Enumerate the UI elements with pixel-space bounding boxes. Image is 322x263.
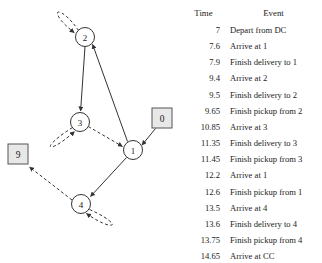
edge-4-to-9 — [30, 167, 73, 200]
cell-time: 13.75 — [186, 232, 221, 248]
edge-3-to-1 — [88, 127, 122, 147]
cell-time: 13.6 — [186, 216, 221, 232]
depot-0-label: 0 — [160, 114, 165, 124]
cell-time: 12.2 — [186, 168, 221, 184]
column-header-time: Time — [186, 5, 221, 22]
table-row: 9.4 Arrive at 2 — [186, 71, 322, 87]
cell-event: Arrive at 4 — [221, 200, 322, 216]
node-3-label: 3 — [78, 118, 83, 128]
edge-2-to-3 — [81, 47, 85, 112]
cell-time: 13.5 — [186, 200, 221, 216]
table-row: 13.6 Finish delivery to 4 — [186, 216, 322, 232]
cell-time: 14.65 — [186, 249, 221, 263]
node-1-label: 1 — [131, 146, 136, 156]
cell-time: 7.9 — [186, 54, 221, 70]
table-row: 9.65 Finish pickup from 2 — [186, 103, 322, 119]
edge-1-to-2 — [93, 44, 128, 141]
cell-time: 7 — [186, 22, 221, 38]
cell-event: Arrive at 1 — [221, 38, 322, 54]
edge-0-to-1 — [142, 129, 156, 146]
cell-time: 10.85 — [186, 119, 221, 135]
graph-node-1[interactable]: 1 — [124, 141, 143, 160]
table-row: 13.5 Arrive at 4 — [186, 200, 322, 216]
cell-time: 11.45 — [186, 152, 221, 168]
table-body: 7 Depart from DC 7.6 Arrive at 1 7.9 Fin… — [186, 22, 322, 263]
cell-time: 12.6 — [186, 184, 221, 200]
cell-time: 11.35 — [186, 135, 221, 151]
selfloop-node-3 — [50, 128, 74, 147]
cell-time: 9.4 — [186, 71, 221, 87]
cell-event: Finish pickup from 3 — [221, 152, 322, 168]
cell-event: Arrive at 1 — [221, 168, 322, 184]
event-schedule-table: Time Event 7 Depart from DC 7.6 Arrive a… — [186, 5, 322, 263]
depot-9-label: 9 — [16, 150, 21, 160]
depot-node-0[interactable]: 0 — [152, 108, 172, 128]
table-row: 9.5 Finish delivery to 2 — [186, 87, 322, 103]
table-row: 12.6 Finish pickup from 1 — [186, 184, 322, 200]
table-row: 11.45 Finish pickup from 3 — [186, 152, 322, 168]
table-row: 7.6 Arrive at 1 — [186, 38, 322, 54]
table-row: 14.65 Arrive at CC — [186, 249, 322, 263]
table-row: 11.35 Finish delivery to 3 — [186, 135, 322, 151]
table-row: 7 Depart from DC — [186, 22, 322, 38]
edge-1-to-4 — [91, 158, 127, 197]
cell-time: 9.65 — [186, 103, 221, 119]
table-row: 12.2 Arrive at 1 — [186, 168, 322, 184]
table-row: 10.85 Arrive at 3 — [186, 119, 322, 135]
depot-node-9[interactable]: 9 — [8, 144, 28, 164]
selfloop-node-2 — [57, 12, 78, 33]
cell-event: Finish delivery to 1 — [221, 54, 322, 70]
table-row: 13.75 Finish pickup from 4 — [186, 232, 322, 248]
graph-node-2[interactable]: 2 — [76, 28, 95, 47]
cell-event: Finish delivery to 2 — [221, 87, 322, 103]
cell-event: Arrive at 3 — [221, 119, 322, 135]
node-4-label: 4 — [79, 200, 84, 210]
cell-event: Finish pickup from 2 — [221, 103, 322, 119]
graph-node-4[interactable]: 4 — [72, 195, 91, 214]
cell-event: Finish delivery to 3 — [221, 135, 322, 151]
cell-event: Depart from DC — [221, 22, 322, 38]
cell-event: Finish pickup from 4 — [221, 232, 322, 248]
cell-time: 7.6 — [186, 38, 221, 54]
cell-event: Arrive at 2 — [221, 71, 322, 87]
table-row: 7.9 Finish delivery to 1 — [186, 54, 322, 70]
node-2-label: 2 — [83, 33, 88, 43]
cell-time: 9.5 — [186, 87, 221, 103]
cell-event: Arrive at CC — [221, 249, 322, 263]
route-graph: 0 9 2 3 — [0, 0, 185, 242]
cell-event: Finish pickup from 1 — [221, 184, 322, 200]
cell-event: Finish delivery to 4 — [221, 216, 322, 232]
graph-node-3[interactable]: 3 — [71, 113, 90, 132]
column-header-event: Event — [221, 5, 322, 22]
table-header-row: Time Event — [186, 5, 322, 22]
selfloop-node-4 — [87, 210, 113, 226]
